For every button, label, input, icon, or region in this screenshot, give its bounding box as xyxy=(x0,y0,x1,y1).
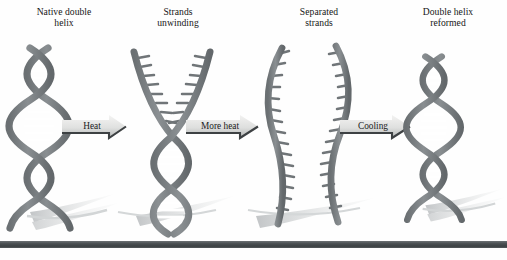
panel-caption-native-double-helix: Native double helix xyxy=(8,6,120,29)
helix-backbone-strands xyxy=(406,57,461,220)
panel-caption-strands-unwinding: Strands unwinding xyxy=(124,6,232,29)
arrow-more-heat-label: More heat xyxy=(183,121,257,131)
helix-backbone-strands xyxy=(9,48,70,228)
bottom-rule xyxy=(0,241,507,248)
diagram-canvas: Native double helix Strands unwinding Se… xyxy=(0,0,507,260)
panel-double-helix-reformed xyxy=(400,40,507,240)
strand-shadow xyxy=(248,198,374,228)
panel-caption-double-helix-reformed: Double helix reformed xyxy=(392,6,504,29)
single-strand-backbones xyxy=(268,46,349,224)
arrow-cooling-label: Cooling xyxy=(337,121,409,131)
panel-caption-separated-strands: Separated strands xyxy=(264,6,374,29)
arrow-heat-label: Heat xyxy=(59,121,125,131)
